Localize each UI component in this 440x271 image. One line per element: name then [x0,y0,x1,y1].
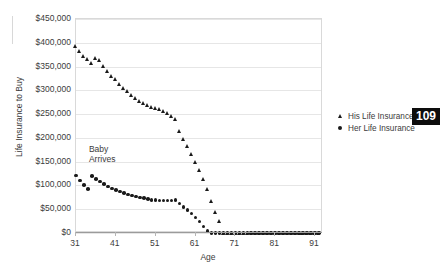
data-point-her [142,196,146,200]
data-point-his [185,144,189,148]
x-tick-mark [234,232,235,236]
gridline [76,114,321,115]
data-point-her [158,199,162,203]
data-point-her [138,196,142,200]
x-axis-line [75,232,322,233]
data-point-her [86,187,90,191]
data-point-his [89,61,93,65]
y-tick-label: $0 [1,227,71,237]
data-point-his [97,58,101,62]
x-tick-label: 41 [95,238,135,248]
x-tick-label: 51 [135,238,175,248]
data-point-her [190,212,194,216]
plot-area [75,18,322,232]
data-point-her [174,198,178,202]
x-tick-label: 71 [214,238,254,248]
data-point-his [105,69,109,73]
data-point-her [162,199,166,203]
data-point-her [194,216,198,220]
data-point-his [173,117,177,121]
y-tick-label: $100,000 [1,179,71,189]
gridline [76,90,321,91]
data-point-her [202,225,206,229]
x-tick-mark [115,232,116,236]
x-tick-mark [155,232,156,236]
y-tick-label: $450,000 [1,13,71,23]
data-point-her [186,208,190,212]
x-axis-title: Age [178,252,238,262]
gridline [76,138,321,139]
y-axis-title: Life Insurance to Buy [14,52,24,182]
data-point-his [181,137,185,141]
data-point-her [82,183,86,187]
data-point-his [205,187,209,191]
y-tick-label: $300,000 [1,84,71,94]
y-tick-label: $50,000 [1,203,71,213]
data-point-his [177,129,181,133]
circle-marker-icon [336,123,346,133]
triangle-marker-icon [336,111,346,121]
gridline [76,19,321,20]
data-point-her [74,174,78,178]
data-point-her [178,202,182,206]
y-tick-label: $400,000 [1,37,71,47]
data-point-her [182,205,186,209]
gridline [76,67,321,68]
data-point-his [217,219,221,223]
annotation-baby-arrives: Baby Arrives [89,144,115,164]
x-tick-label: 81 [254,238,294,248]
x-tick-label: 91 [294,238,334,248]
gridline [76,43,321,44]
x-tick-label: 31 [55,238,95,248]
legend-label-her: Her Life Insurance [346,124,415,133]
data-point-his [213,210,217,214]
y-tick-label: $350,000 [1,61,71,71]
data-point-her [134,195,138,199]
x-tick-mark [314,232,315,236]
data-point-his [197,168,201,172]
data-point-his [101,64,105,68]
legend-item-his[interactable]: His Life Insurance [336,110,415,122]
data-point-her [198,220,202,224]
x-tick-label: 61 [175,238,215,248]
data-point-her [166,199,170,203]
y-tick-label: $200,000 [1,132,71,142]
legend-label-his: His Life Insurance [346,112,414,121]
data-point-her [150,198,154,202]
gridline [76,209,321,210]
data-point-his [73,44,77,48]
data-point-his [201,177,205,181]
chart-legend: His Life Insurance Her Life Insurance [336,110,415,134]
x-tick-mark [75,232,76,236]
data-point-her [170,199,174,203]
y-axis-tick-labels: $0$50,000$100,000$150,000$200,000$250,00… [0,0,71,271]
data-point-her [154,198,158,202]
x-tick-mark [195,232,196,236]
data-point-his [189,152,193,156]
data-point-her [78,179,82,183]
data-point-his [193,160,197,164]
x-tick-mark [274,232,275,236]
page-number-badge: 109 [412,108,440,125]
legend-item-her[interactable]: Her Life Insurance [336,122,415,134]
data-point-her [146,197,150,201]
data-point-his [209,199,213,203]
y-tick-label: $150,000 [1,156,71,166]
y-tick-label: $250,000 [1,108,71,118]
